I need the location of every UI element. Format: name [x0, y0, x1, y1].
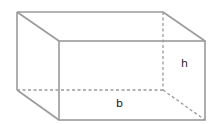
- hidden-edges: [17, 12, 205, 120]
- hidden-depth-edge: [163, 90, 205, 120]
- bottom-left-depth-edge: [17, 90, 59, 120]
- solid-edges: [17, 12, 205, 120]
- cuboid-diagram: h b: [0, 0, 217, 124]
- base-label: b: [116, 97, 123, 110]
- height-label: h: [181, 57, 188, 70]
- front-face: [59, 41, 205, 120]
- top-left-depth-edge: [17, 12, 59, 41]
- top-right-depth-edge: [163, 12, 205, 41]
